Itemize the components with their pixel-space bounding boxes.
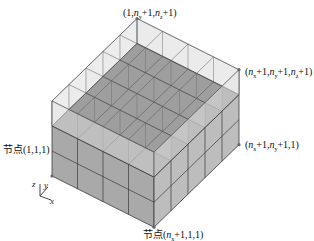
node-origin-marker <box>50 174 53 177</box>
axis-label-x: x <box>50 197 54 206</box>
axis-label-z: z <box>32 180 36 189</box>
label-front-bottom-node: 节点(nx+1,1,1) <box>143 230 203 241</box>
node-mid-right-marker <box>237 143 240 146</box>
label-origin-node: 节点(1,1,1) <box>3 145 50 155</box>
label-top-right-node: (nx+1,ny+1,nz+1) <box>245 67 312 79</box>
label-top-back-node: (1,ny+1,nz+1) <box>123 8 177 20</box>
grid-mesh-diagram <box>0 0 314 241</box>
label-mid-right-node: (nx+1,ny+1,1) <box>245 140 299 152</box>
node-top-right-marker <box>237 68 240 71</box>
axis-label-y: y <box>44 181 48 190</box>
